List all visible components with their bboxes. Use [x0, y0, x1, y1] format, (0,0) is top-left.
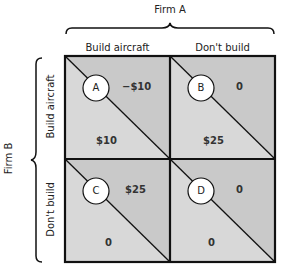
- outcome-label-c: C: [83, 185, 109, 196]
- cell-c-firm-a-payoff: $25: [125, 184, 146, 195]
- column-label-dont-build: Don't build: [170, 42, 275, 53]
- cell-b-firm-b-payoff: $25: [203, 135, 224, 146]
- firm-b-label: Firm B: [3, 129, 14, 189]
- cell-d-firm-b-payoff: 0: [208, 237, 215, 248]
- cell-d-firm-a-payoff: 0: [236, 184, 243, 195]
- cell-a-firm-b-payoff: $10: [96, 135, 117, 146]
- row-label-dont-build: Don't build: [45, 160, 56, 260]
- row-label-build: Build aircraft: [45, 57, 56, 157]
- firm-a-brace-icon: [66, 23, 274, 34]
- cell-a-firm-a-payoff: −$10: [122, 81, 151, 92]
- firm-b-brace-icon: [31, 58, 42, 262]
- cell-b-firm-a-payoff: 0: [236, 81, 243, 92]
- cell-c-firm-b-payoff: 0: [105, 237, 112, 248]
- column-label-build: Build aircraft: [65, 42, 170, 53]
- outcome-label-a: A: [83, 82, 109, 93]
- outcome-label-d: D: [188, 185, 214, 196]
- outcome-label-b: B: [188, 82, 214, 93]
- firm-a-label: Firm A: [0, 4, 293, 15]
